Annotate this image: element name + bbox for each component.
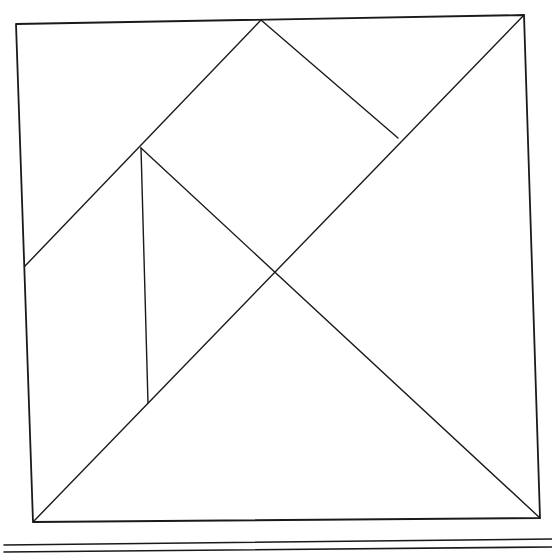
figure-canvas [0, 0, 552, 556]
drawing-background [0, 0, 552, 556]
line-drawing-svg [0, 0, 552, 556]
